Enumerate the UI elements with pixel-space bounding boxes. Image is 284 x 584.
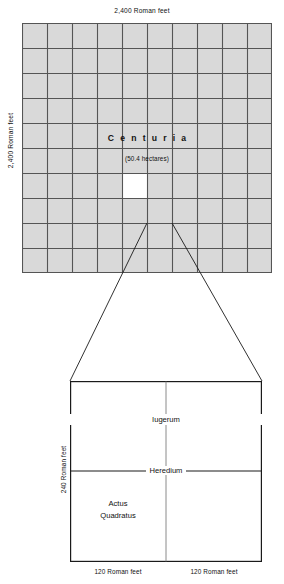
centuria-cell <box>247 23 272 48</box>
centuria-cell <box>22 23 47 48</box>
centuria-cell <box>197 248 222 273</box>
actus-quadratus-line1: Actus <box>70 498 166 510</box>
centuria-cell <box>72 73 97 98</box>
centuria-cell <box>172 223 197 248</box>
centuria-cell <box>22 198 47 223</box>
centuria-cell <box>47 23 72 48</box>
detail-bottom-dimension-label-right: 120 Roman feet <box>166 568 262 575</box>
detail-bottom-dimension-label-left: 120 Roman feet <box>70 568 166 575</box>
centuria-cell <box>122 198 147 223</box>
centuria-cell <box>72 23 97 48</box>
centuria-cell <box>222 73 247 98</box>
centuria-cell <box>47 223 72 248</box>
centuria-cell <box>222 198 247 223</box>
centuria-cell <box>47 48 72 73</box>
centuria-cell <box>22 48 47 73</box>
centuria-cell <box>222 173 247 198</box>
iugerum-label-wrap: Iugerum <box>70 414 262 425</box>
centuria-cell <box>122 73 147 98</box>
centuria-cell <box>247 73 272 98</box>
centuria-cell <box>122 23 147 48</box>
centuria-cell <box>97 248 122 273</box>
centuria-cell <box>247 223 272 248</box>
centuria-cell <box>122 98 147 123</box>
centuria-cell <box>97 173 122 198</box>
centuria-cell <box>222 223 247 248</box>
heredium-label: Heredium <box>146 466 187 475</box>
centuria-cell <box>197 98 222 123</box>
centuria-cell <box>47 173 72 198</box>
centuria-cell <box>147 248 172 273</box>
centuria-cell <box>72 173 97 198</box>
centuria-cell <box>122 248 147 273</box>
centuria-cell <box>222 23 247 48</box>
actus-quadratus-line2: Quadratus <box>70 510 166 522</box>
centuria-cell <box>97 223 122 248</box>
centuria-cell <box>197 48 222 73</box>
centuria-area-label: (50.4 hectares) <box>22 155 272 162</box>
centuria-cell <box>172 23 197 48</box>
centuria-cell <box>72 98 97 123</box>
centuria-cell <box>72 248 97 273</box>
heredium-label-wrap: Heredium <box>70 466 262 475</box>
centuria-cell <box>172 73 197 98</box>
centuria-cell <box>197 173 222 198</box>
centuria-name-label: Centuria <box>22 133 272 143</box>
centuria-cell <box>247 173 272 198</box>
centuria-cell <box>22 98 47 123</box>
centuria-cell <box>47 248 72 273</box>
centuria-cell <box>247 198 272 223</box>
centuria-cell-highlighted <box>122 173 147 198</box>
centuria-cell <box>197 73 222 98</box>
actus-quadratus-label: Actus Quadratus <box>70 498 166 521</box>
centuria-cell <box>172 98 197 123</box>
centuria-cell <box>47 198 72 223</box>
centuria-cell <box>22 248 47 273</box>
centuria-cell <box>147 98 172 123</box>
centuria-cell <box>122 223 147 248</box>
centuria-cell <box>197 198 222 223</box>
centuria-cell <box>147 73 172 98</box>
centuria-cell <box>197 223 222 248</box>
centuria-cell <box>97 198 122 223</box>
centuria-cell <box>72 223 97 248</box>
centuria-cell <box>97 48 122 73</box>
centuria-cell <box>22 73 47 98</box>
centuria-cell <box>172 173 197 198</box>
centuria-cell <box>247 248 272 273</box>
centuria-cell <box>122 48 147 73</box>
centuria-cell <box>72 198 97 223</box>
centuria-left-dimension-label: 2,400 Roman feet <box>7 105 14 177</box>
centuria-cell <box>47 98 72 123</box>
centuria-cell <box>222 248 247 273</box>
centuria-cell <box>222 48 247 73</box>
centuria-cell <box>22 173 47 198</box>
centuria-cell <box>97 73 122 98</box>
centuria-top-dimension-label: 2,400 Roman feet <box>0 7 284 14</box>
centuria-cell <box>147 23 172 48</box>
iugerum-label: Iugerum <box>148 415 184 424</box>
centuria-cell <box>147 223 172 248</box>
centuria-grid <box>22 23 272 273</box>
centuria-cell <box>247 48 272 73</box>
centuria-cell <box>147 173 172 198</box>
centuria-cell <box>97 98 122 123</box>
centuria-cell <box>47 73 72 98</box>
centuria-cell <box>197 23 222 48</box>
centuria-cell <box>147 198 172 223</box>
centuria-cell <box>147 48 172 73</box>
centuria-cell <box>72 48 97 73</box>
detail-left-dimension-label: 240 Roman feet <box>60 437 67 503</box>
centuria-cell <box>22 223 47 248</box>
centuria-cell <box>172 248 197 273</box>
centuria-cell <box>247 98 272 123</box>
roman-land-units-diagram: 2,400 Roman feet 2,400 Roman feet <box>0 0 284 584</box>
centuria-grid-cells <box>22 23 272 273</box>
centuria-cell <box>97 23 122 48</box>
centuria-cell <box>172 198 197 223</box>
centuria-cell <box>172 48 197 73</box>
centuria-cell <box>222 98 247 123</box>
